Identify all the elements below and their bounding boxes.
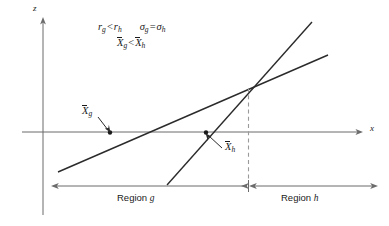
mean-h-label: Xh — [225, 142, 235, 153]
annotation-sigma-g: σg — [140, 21, 149, 32]
region-g-label-text: Region — [117, 192, 147, 203]
annotation-sigma-h-base: σ — [157, 21, 162, 32]
annotation-rel-1: < — [106, 21, 114, 32]
region-g-label-symbol: g — [150, 193, 155, 203]
annotation-line-2: Xg<Xh — [117, 38, 145, 49]
region-h-label-text: Region — [281, 192, 311, 203]
mean-h-leader-arrow — [206, 133, 222, 148]
region-axis — [51, 180, 378, 192]
annotation-r-h: rh — [114, 21, 122, 32]
annotation-xbar-h-base: X — [135, 38, 141, 49]
regression-lines-figure: z x rg<rhσg=σh Xg<Xh Xg Xh Region g Regi… — [0, 0, 389, 226]
annotation-xbar-g-sub: g — [123, 41, 127, 50]
regression-line-g — [58, 55, 328, 172]
annotation-xbar-h: Xh — [135, 37, 145, 48]
figure-canvas — [0, 0, 389, 226]
annotation-sigma-g-sub: g — [145, 25, 149, 34]
mean-g-leader-arrow — [98, 117, 110, 133]
mean-h-label-sub: h — [231, 145, 235, 154]
regression-line-h — [167, 22, 312, 185]
annotation-r-g: rg — [98, 21, 106, 32]
annotation-sigma-h-sub: h — [162, 25, 166, 34]
annotation-r-h-sub: h — [118, 25, 122, 34]
annotation-rel-2: = — [149, 21, 157, 32]
annotation-xbar-g: Xg — [117, 37, 127, 48]
mean-g-label-sub: g — [88, 109, 92, 118]
region-g-right-arrowhead — [241, 183, 249, 189]
annotation-sigma-h: σh — [157, 21, 166, 32]
region-g-label: Region g — [117, 193, 155, 204]
region-h-label: Region h — [281, 193, 319, 204]
z-axis — [40, 17, 46, 215]
region-h-label-symbol: h — [314, 193, 319, 203]
annotation-line-1: rg<rhσg=σh — [98, 22, 166, 33]
z-axis-label: z — [33, 4, 37, 13]
annotation-xbar-h-sub: h — [142, 41, 146, 50]
annotation-rel-3: < — [127, 37, 135, 48]
x-axis-label: x — [370, 124, 374, 133]
x-axis — [22, 129, 363, 135]
annotation-r-g-sub: g — [102, 25, 106, 34]
mean-g-label: Xg — [82, 106, 92, 117]
